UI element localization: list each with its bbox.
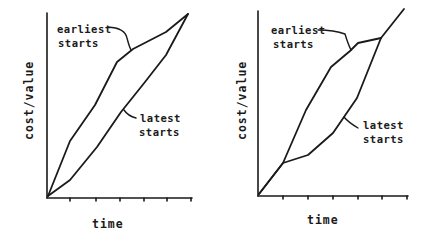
left-x-axis-label: time xyxy=(92,217,124,231)
right-y-axis-label: cost/value xyxy=(235,61,249,140)
left-latest-label-line1: latest xyxy=(140,112,181,124)
right-x-axis-label: time xyxy=(307,213,339,227)
left-latest-pointer xyxy=(124,110,136,118)
right-latest-label-line1: latest xyxy=(363,119,404,131)
right-chart: earliest starts latest starts cost/value… xyxy=(235,9,408,227)
left-chart: earliest starts latest starts cost/value… xyxy=(22,13,192,231)
right-combined-tail xyxy=(381,9,404,38)
right-earliest-label-line2: starts xyxy=(273,38,314,50)
right-latest-starts-curve xyxy=(259,38,381,194)
left-earliest-label-line2: starts xyxy=(58,37,99,49)
diagram-canvas: earliest starts latest starts cost/value… xyxy=(0,0,429,240)
left-earliest-label-line1: earliest xyxy=(57,23,112,35)
left-y-axis-label: cost/value xyxy=(22,61,36,140)
right-latest-label-line2: starts xyxy=(363,133,404,145)
right-earliest-label-line1: earliest xyxy=(271,24,326,36)
right-latest-pointer xyxy=(344,117,358,128)
left-latest-label-line2: starts xyxy=(139,126,180,138)
